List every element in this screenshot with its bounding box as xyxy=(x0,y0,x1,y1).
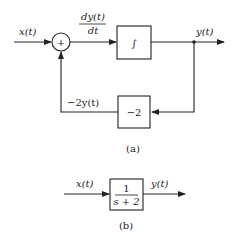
output-label-b: y(t) xyxy=(150,178,169,189)
derivative-numerator: dy(t) xyxy=(81,11,105,22)
output-label: y(t) xyxy=(195,26,214,37)
feedback-path-right xyxy=(152,42,194,112)
feedback-label: −2y(t) xyxy=(67,97,99,108)
gain-value: −2 xyxy=(127,107,142,118)
block-diagrams: x(t) + dy(t) dt ∫ y(t) −2 −2y(t) (a) x(t… xyxy=(0,0,237,239)
input-label-b: x(t) xyxy=(76,178,94,189)
transfer-numerator: 1 xyxy=(123,183,129,194)
caption-b: (b) xyxy=(119,220,133,231)
integrator-symbol: ∫ xyxy=(131,38,136,49)
diagram-b: x(t) 1 s + 2 y(t) (b) xyxy=(64,178,185,231)
transfer-denominator: s + 2 xyxy=(113,196,139,207)
input-label: x(t) xyxy=(19,26,37,37)
sum-sign: + xyxy=(57,37,65,48)
diagram-a: x(t) + dy(t) dt ∫ y(t) −2 −2y(t) (a) xyxy=(14,11,224,154)
derivative-denominator: dt xyxy=(88,25,99,36)
caption-a: (a) xyxy=(126,143,140,154)
